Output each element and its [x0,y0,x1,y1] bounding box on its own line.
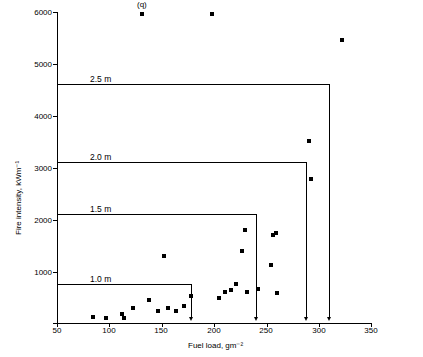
data-point [147,298,151,302]
chart-figure: (q) Fire intensity, kWm⁻¹ Fuel load, gm⁻… [0,0,423,357]
data-point [229,288,233,292]
x-tick [162,323,163,327]
y-tick-label: 3000 [22,164,52,173]
y-tick-label: 1000 [22,268,52,277]
threshold-line-1-5m-vertical [256,214,257,319]
y-tick [53,168,57,169]
data-point [223,290,227,294]
y-tick [53,272,57,273]
threshold-arrow-2-5m [327,317,331,321]
y-tick [53,220,57,221]
data-point [104,316,108,320]
y-tick [53,12,57,13]
data-point [309,177,313,181]
top-partial-label: (q) [137,0,147,9]
threshold-label-1-5m: 1.5 m [90,204,111,214]
data-point [122,316,126,320]
data-point [162,254,166,258]
threshold-line-2-5m-vertical [329,84,330,319]
data-point [166,306,170,310]
data-point [182,304,186,308]
y-tick-label: 5000 [22,60,52,69]
data-point [234,282,238,286]
x-tick-label: 200 [199,326,229,335]
x-tick [57,323,58,327]
plot-area: 2.5 m 2.0 m 1.5 m 1.0 m [57,12,372,324]
data-point [340,38,344,42]
threshold-line-1-0m-horizontal [57,284,192,285]
y-tick-label: 4000 [22,112,52,121]
x-tick-label: 50 [42,326,72,335]
threshold-label-2-0m: 2.0 m [90,152,111,162]
x-tick-label: 350 [356,326,386,335]
data-point [156,309,160,313]
threshold-line-1-0m-vertical [191,284,192,319]
threshold-label-2-5m: 2.5 m [90,74,111,84]
data-point [174,309,178,313]
data-point [210,12,214,16]
data-point [245,290,249,294]
x-tick-label: 300 [304,326,334,335]
threshold-arrow-1-5m [254,317,258,321]
data-point [274,231,278,235]
data-point [131,306,135,310]
x-tick [371,323,372,327]
threshold-line-2-0m-vertical [306,162,307,319]
y-tick [53,64,57,65]
x-tick-label: 250 [251,326,281,335]
data-point [189,294,193,298]
x-tick-label: 150 [146,326,176,335]
y-tick [53,116,57,117]
data-point [243,228,247,232]
x-tick [214,323,215,327]
x-tick [319,323,320,327]
y-tick-label: 6000 [22,8,52,17]
data-point [269,263,273,267]
data-point [240,249,244,253]
threshold-line-2-0m-horizontal [57,162,307,163]
x-tick [109,323,110,327]
data-point [256,287,260,291]
x-tick-label: 100 [94,326,124,335]
threshold-line-2-5m-horizontal [57,84,330,85]
data-point [91,315,95,319]
y-axis-line [57,12,58,324]
data-point [307,139,311,143]
threshold-label-1-0m: 1.0 m [90,274,111,284]
threshold-arrow-1-0m [189,317,193,321]
x-axis-label: Fuel load, gm⁻² [188,341,243,350]
data-point [140,12,144,16]
data-point [217,296,221,300]
y-tick-label: 2000 [22,216,52,225]
threshold-line-1-5m-horizontal [57,214,257,215]
data-point [275,291,279,295]
threshold-arrow-2-0m [304,317,308,321]
x-tick [267,323,268,327]
